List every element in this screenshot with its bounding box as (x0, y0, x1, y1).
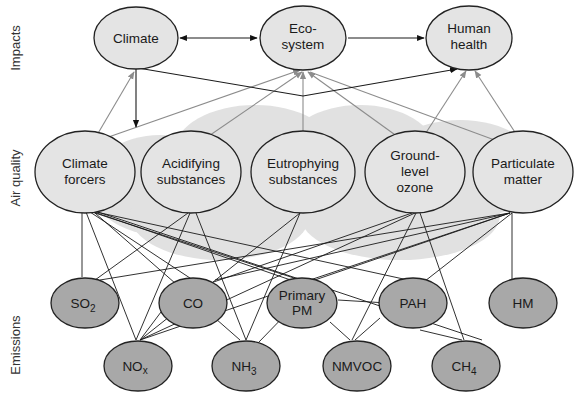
row-label-impacts: Impacts (8, 25, 23, 71)
svg-text:level: level (401, 164, 429, 179)
svg-text:Eutrophying: Eutrophying (267, 156, 339, 171)
svg-text:substances: substances (157, 172, 226, 187)
impact-node-climate: Climate (94, 7, 178, 69)
svg-text:ozone: ozone (397, 180, 434, 195)
svg-text:Ground-: Ground- (390, 148, 440, 163)
svg-text:Primary: Primary (279, 288, 326, 303)
impact-node-ecosystem: Eco- system (260, 6, 346, 70)
svg-text:NMVOC: NMVOC (332, 359, 383, 374)
svg-text:health: health (451, 37, 488, 52)
emission-node-nox: NOx (104, 341, 172, 391)
impact-node-human-health: Human health (426, 6, 512, 70)
svg-text:Acidifying: Acidifying (162, 156, 220, 171)
air-pollution-impact-diagram: Impacts Air quality Emissions (0, 0, 578, 395)
svg-text:PAH: PAH (400, 296, 427, 311)
svg-text:PM: PM (292, 303, 312, 318)
svg-text:HM: HM (513, 296, 534, 311)
emission-node-nmvoc: NMVOC (323, 341, 391, 391)
air-node-ground-level-ozone: Ground- level ozone (365, 131, 465, 213)
emission-node-ch4: CH4 (432, 341, 500, 391)
air-node-particulate-matter: Particulate matter (473, 131, 573, 213)
air-node-eutrophying: Eutrophying substances (251, 131, 355, 213)
emission-node-hm: HM (489, 278, 557, 328)
emission-node-co: CO (159, 278, 227, 328)
svg-text:system: system (282, 37, 325, 52)
svg-text:matter: matter (504, 172, 543, 187)
svg-text:Eco-: Eco- (289, 21, 317, 36)
air-node-climate-forcers: Climate forcers (35, 131, 135, 213)
emission-node-nh3: NH3 (212, 341, 280, 391)
emission-node-pah: PAH (379, 278, 447, 328)
svg-text:substances: substances (269, 172, 338, 187)
row-label-air-quality: Air quality (8, 149, 23, 207)
emission-node-so2: SO2 (51, 278, 119, 328)
svg-text:Particulate: Particulate (491, 156, 555, 171)
svg-text:Human: Human (447, 21, 491, 36)
svg-text:Climate: Climate (62, 156, 108, 171)
svg-text:CO: CO (183, 296, 203, 311)
svg-text:forcers: forcers (64, 172, 106, 187)
svg-text:Climate: Climate (113, 31, 159, 46)
row-label-emissions: Emissions (8, 315, 23, 375)
air-node-acidifying: Acidifying substances (141, 131, 241, 213)
emission-node-primary-pm: Primary PM (267, 278, 337, 328)
